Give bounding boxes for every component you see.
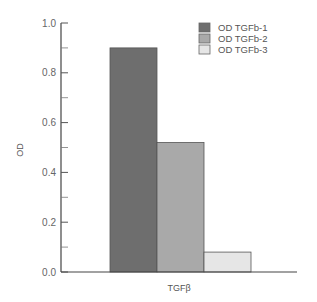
y-tick-label: 0.6: [42, 117, 56, 128]
bar-od-tgfb-1: [110, 48, 157, 272]
bars: [110, 48, 251, 272]
legend-label: OD TGFb-3: [218, 44, 267, 55]
legend-swatch: [199, 23, 210, 32]
legend-label: OD TGFb-1: [218, 22, 267, 33]
legend-label: OD TGFb-2: [218, 33, 267, 44]
bar-od-tgfb-2: [157, 143, 204, 272]
legend-swatch: [199, 34, 210, 43]
bar-od-tgfb-3: [204, 252, 251, 272]
y-tick-label: 0.0: [42, 267, 56, 278]
y-tick-label: 0.8: [42, 67, 56, 78]
x-axis-title: TGFβ: [167, 283, 190, 293]
y-tick-label: 0.2: [42, 217, 56, 228]
legend-swatch: [199, 45, 210, 54]
y-axis: 0.00.20.40.60.81.0: [42, 18, 68, 278]
y-axis-title: OD: [15, 143, 25, 157]
legend: OD TGFb-1OD TGFb-2OD TGFb-3: [199, 22, 267, 55]
y-tick-label: 0.4: [42, 167, 56, 178]
bar-chart: 0.00.20.40.60.81.0 OD TGFb-1OD TGFb-2OD …: [0, 0, 317, 302]
y-tick-label: 1.0: [42, 18, 56, 29]
